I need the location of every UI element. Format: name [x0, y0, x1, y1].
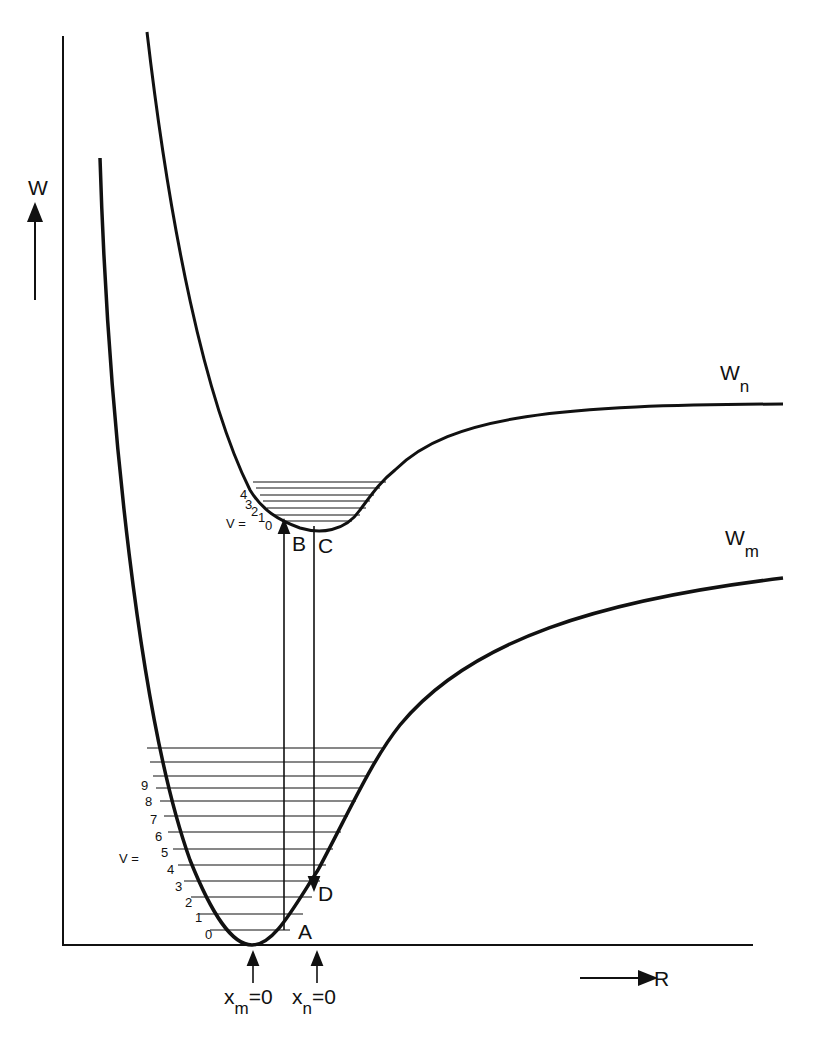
upper-v-1: 1	[258, 511, 265, 524]
upper-potential-curve	[147, 32, 783, 531]
point-D: D	[318, 883, 333, 904]
lower-v-0: 0	[205, 928, 212, 941]
lower-v-3: 3	[175, 880, 182, 893]
point-B: B	[292, 533, 306, 554]
lower-v-9: 9	[141, 779, 148, 792]
upper-v-4: 4	[240, 488, 247, 501]
y-axis-label: W	[28, 177, 48, 198]
xm-label: xm=0	[224, 986, 273, 1007]
upper-curve-label: Wn	[720, 362, 749, 383]
point-A: A	[298, 921, 312, 942]
lower-v-prefix: V =	[119, 852, 139, 865]
lower-v-7: 7	[150, 813, 157, 826]
lower-v-8: 8	[145, 795, 152, 808]
lower-v-4: 4	[167, 863, 174, 876]
lower-v-2: 2	[185, 896, 192, 909]
lower-curve-label: Wm	[725, 527, 759, 548]
upper-vibrational-levels	[253, 482, 386, 521]
lower-potential-curve	[100, 158, 783, 945]
upper-v-prefix: V =	[226, 517, 246, 530]
upper-v-0: 0	[265, 519, 272, 532]
x-axis-label: R	[654, 968, 669, 989]
diagram-canvas	[0, 0, 817, 1053]
xn-label: xn=0	[292, 986, 336, 1007]
point-C: C	[318, 535, 333, 556]
lower-v-6: 6	[155, 830, 162, 843]
lower-v-1: 1	[195, 911, 202, 924]
lower-v-5: 5	[161, 846, 168, 859]
